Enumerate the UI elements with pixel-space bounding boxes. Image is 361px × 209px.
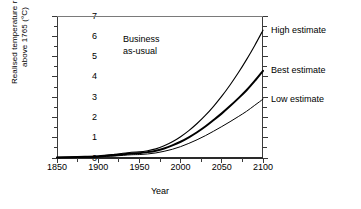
x-tick-major bbox=[139, 158, 140, 163]
plot-area: Business as-usual bbox=[57, 16, 263, 158]
right-tick-minor bbox=[263, 87, 267, 88]
right-tick-major bbox=[263, 137, 268, 138]
scenario-annotation: Business as-usual bbox=[123, 34, 160, 57]
x-tick-minor bbox=[242, 158, 243, 162]
series-label-low-estimate: Low estimate bbox=[271, 95, 324, 104]
x-tick-label: 1850 bbox=[37, 163, 77, 172]
right-tick-minor bbox=[263, 107, 267, 108]
x-tick-major bbox=[263, 158, 264, 163]
series-line-high-estimate bbox=[57, 30, 263, 157]
x-tick-minor bbox=[201, 158, 202, 162]
x-tick-label: 1900 bbox=[78, 163, 118, 172]
right-tick-minor bbox=[263, 66, 267, 67]
chart-container: Realised temperature rise above 1765 (°C… bbox=[0, 0, 361, 209]
x-tick-label: 2000 bbox=[161, 163, 201, 172]
x-tick-major bbox=[57, 158, 58, 163]
right-tick-major bbox=[263, 76, 268, 77]
right-tick-major bbox=[263, 97, 268, 98]
right-tick-minor bbox=[263, 26, 267, 27]
x-tick-label: 2100 bbox=[243, 163, 283, 172]
right-tick-minor bbox=[263, 46, 267, 47]
data-curves bbox=[57, 16, 263, 158]
x-tick-label: 2050 bbox=[202, 163, 242, 172]
right-tick-minor bbox=[263, 127, 267, 128]
series-line-best-estimate bbox=[57, 71, 263, 158]
x-axis-title: Year bbox=[57, 186, 263, 196]
x-tick-major bbox=[98, 158, 99, 163]
series-label-high-estimate: High estimate bbox=[271, 26, 326, 35]
right-tick-major bbox=[263, 16, 268, 17]
right-tick-major bbox=[263, 36, 268, 37]
right-tick-major bbox=[263, 117, 268, 118]
right-tick-major bbox=[263, 158, 268, 159]
x-tick-minor bbox=[118, 158, 119, 162]
y-axis-title: Realised temperature rise above 1765 (°C… bbox=[10, 0, 30, 112]
x-tick-label: 1950 bbox=[119, 163, 159, 172]
right-tick-major bbox=[263, 56, 268, 57]
x-tick-major bbox=[180, 158, 181, 163]
series-label-best-estimate: Best estimate bbox=[271, 66, 326, 75]
x-tick-major bbox=[221, 158, 222, 163]
x-tick-minor bbox=[77, 158, 78, 162]
x-tick-minor bbox=[160, 158, 161, 162]
right-tick-minor bbox=[263, 147, 267, 148]
